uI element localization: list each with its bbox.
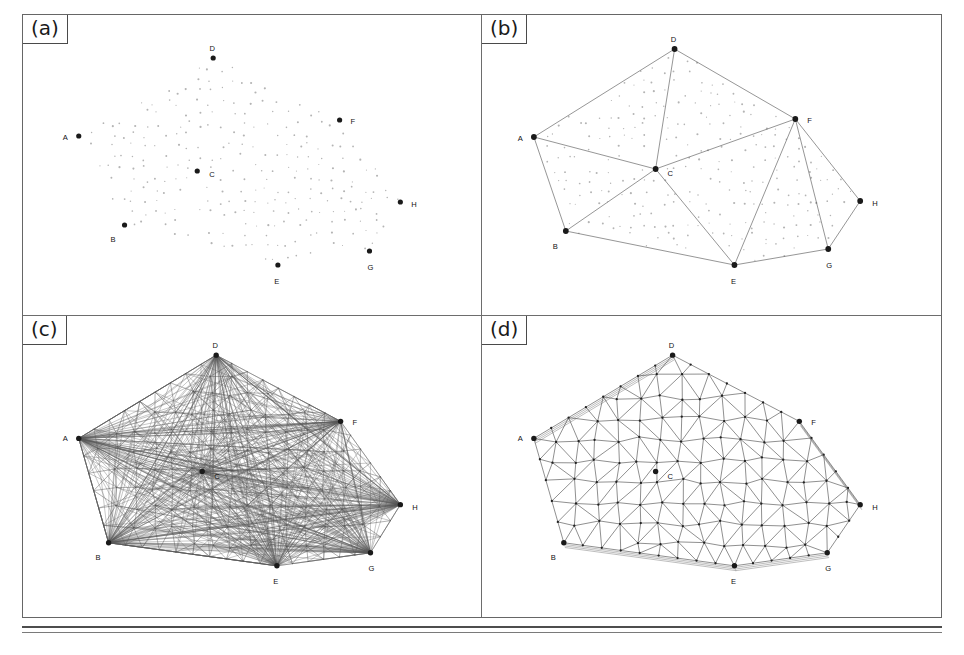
panel-d-canvas: ABCDEFGH [482,316,941,617]
svg-text:A: A [63,434,69,443]
svg-text:B: B [551,553,556,562]
panel-c-canvas: ABCDEFGH [23,316,481,617]
panel-a: (a) ABCDEFGH [23,15,482,316]
svg-text:F: F [811,418,816,427]
svg-text:C: C [209,170,215,179]
panel-a-tag: (a) [23,15,68,44]
svg-text:G: G [825,564,831,573]
svg-text:G: G [369,564,375,573]
svg-text:H: H [411,200,416,209]
svg-text:G: G [826,261,832,270]
svg-text:C: C [668,472,674,481]
svg-text:F: F [807,116,812,125]
svg-text:D: D [212,341,218,350]
raw-triangulation-svg: ABCDEFGH [23,316,481,617]
svg-text:B: B [111,235,116,244]
svg-text:E: E [731,577,736,586]
panel-a-canvas: ABCDEFGH [23,15,481,315]
refined-mesh-svg: ABCDEFGH [482,316,941,617]
svg-text:E: E [731,277,736,286]
svg-text:F: F [351,117,356,126]
svg-text:F: F [353,418,358,427]
svg-text:H: H [872,503,877,512]
boundary-graph-svg: ABCDEFGH [482,15,941,315]
point-cloud-svg: ABCDEFGH [23,15,481,315]
panel-b: (b) ABCDEFGH [482,15,941,316]
svg-text:A: A [518,434,524,443]
panel-d-tag: (d) [482,316,527,345]
svg-text:D: D [669,341,675,350]
svg-text:A: A [518,134,524,143]
figure-root: (a) ABCDEFGH (b) ABCDEFGH (c) ABCDEFGH (… [0,0,964,655]
svg-text:B: B [553,242,558,251]
svg-text:D: D [671,35,677,44]
panel-b-canvas: ABCDEFGH [482,15,941,315]
svg-text:E: E [274,277,279,286]
svg-text:H: H [872,199,877,208]
panel-c: (c) ABCDEFGH [23,316,482,617]
panel-b-tag: (b) [482,15,527,44]
svg-text:C: C [214,472,220,481]
svg-text:B: B [96,553,101,562]
svg-text:C: C [668,169,674,178]
panel-grid: (a) ABCDEFGH (b) ABCDEFGH (c) ABCDEFGH (… [22,14,942,618]
panel-d: (d) ABCDEFGH [482,316,941,617]
bottom-rule-thick [22,626,942,628]
bottom-rule-thin [22,632,942,633]
panel-c-tag: (c) [23,316,67,345]
svg-text:A: A [63,133,69,142]
svg-text:D: D [209,44,215,53]
svg-text:G: G [368,263,374,272]
svg-text:H: H [412,503,417,512]
svg-text:E: E [273,577,278,586]
